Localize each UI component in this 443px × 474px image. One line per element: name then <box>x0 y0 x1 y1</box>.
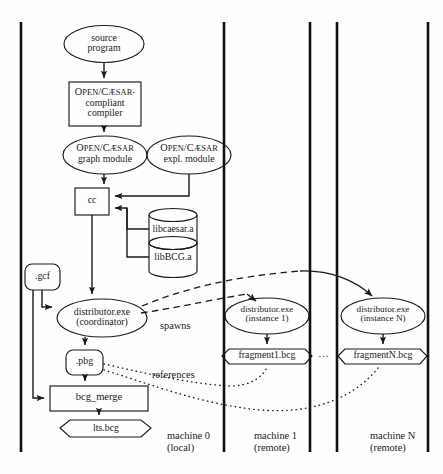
spawns-edge-label: spawns <box>160 320 191 331</box>
fragmentN-shape <box>338 349 427 364</box>
solid-edges <box>33 63 383 415</box>
lts-bcg-shape <box>60 420 151 437</box>
references-edge-label: references <box>152 369 195 380</box>
gcf-shape <box>25 264 60 290</box>
diagram-vector-layer <box>0 0 443 474</box>
edge-spawns-to-instance1-curve <box>141 294 247 313</box>
edge-libbcg-to-cc <box>127 208 149 257</box>
edge-spawns-to-instanceN-curve <box>142 271 300 306</box>
bcg-merge-shape <box>50 386 148 411</box>
graph-module-shape <box>63 136 147 174</box>
edge-libcaesar-to-cc <box>115 208 149 229</box>
diagram-canvas: source program OPEN/CÆSAR- compliant com… <box>0 0 443 474</box>
machine-label-N: machine N (remote) <box>370 430 415 453</box>
compiler-shape <box>69 82 141 126</box>
edge-gcf-to-coordinator <box>42 290 52 307</box>
machine-label-0: machine 0 (local) <box>167 430 210 453</box>
pbg-shape <box>66 350 103 375</box>
libcaesar-shape <box>149 209 197 250</box>
edge-explmodule-to-cc <box>115 174 189 196</box>
libbcg-shape <box>149 237 197 278</box>
fragment1-shape <box>222 349 312 364</box>
source-program-shape <box>64 26 144 63</box>
expl-module-shape <box>147 136 231 174</box>
distributor-coordinator-shape <box>57 299 147 337</box>
cc-shape <box>75 188 109 215</box>
machine-divider-lines <box>21 22 428 452</box>
distributor-instanceN-shape <box>341 298 425 334</box>
machine-label-1: machine 1 (remote) <box>254 430 297 453</box>
distributor-instance1-shape <box>225 298 309 334</box>
